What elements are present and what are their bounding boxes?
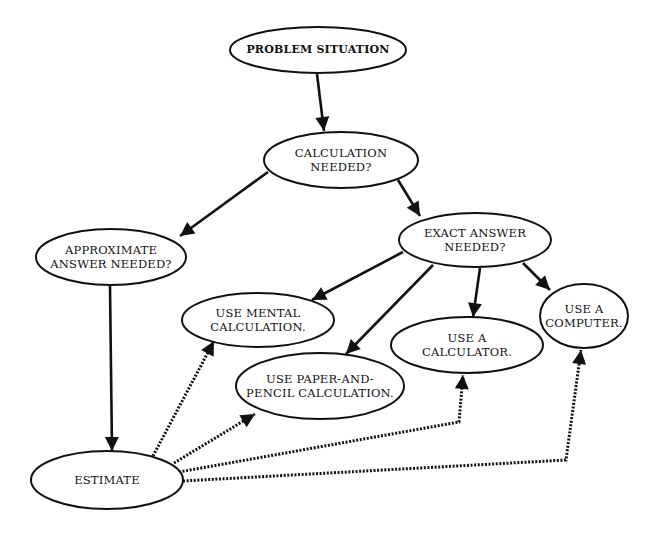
edge-approx-to-estimate — [105, 286, 119, 451]
edge-problem-to-calc_needed — [315, 74, 329, 131]
edge-calc_needed-to-exact — [398, 180, 420, 216]
node-problem — [230, 27, 406, 73]
arrowhead-icon — [315, 116, 329, 131]
edge-exact-to-calculator — [468, 268, 482, 317]
node-paper — [236, 353, 404, 419]
arrowhead-icon — [455, 375, 469, 390]
edge-exact-to-mental — [312, 252, 403, 300]
edge-exact-to-computer — [523, 263, 550, 290]
node-calculator — [391, 317, 543, 373]
node-mental — [182, 293, 334, 347]
node-computer — [540, 284, 628, 348]
arrowhead-icon — [468, 302, 482, 317]
edge-estimate-to-paper — [174, 414, 255, 463]
edge-estimate-to-mental — [153, 341, 214, 456]
arrowhead-icon — [572, 350, 586, 365]
node-calc_needed — [264, 132, 418, 188]
arrowhead-icon — [105, 437, 119, 451]
edge-calc_needed-to-approx — [180, 172, 268, 236]
solid-connector — [180, 172, 268, 236]
solid-connector — [312, 252, 403, 300]
solid-connector — [110, 286, 112, 451]
node-approx — [36, 229, 186, 285]
node-estimate — [31, 451, 183, 509]
node-exact — [399, 213, 551, 267]
dotted-connector — [153, 341, 214, 456]
nodes-layer — [31, 27, 628, 509]
arrowhead-icon — [180, 222, 195, 236]
flowchart-canvas — [0, 0, 660, 539]
dotted-connector — [174, 414, 255, 463]
